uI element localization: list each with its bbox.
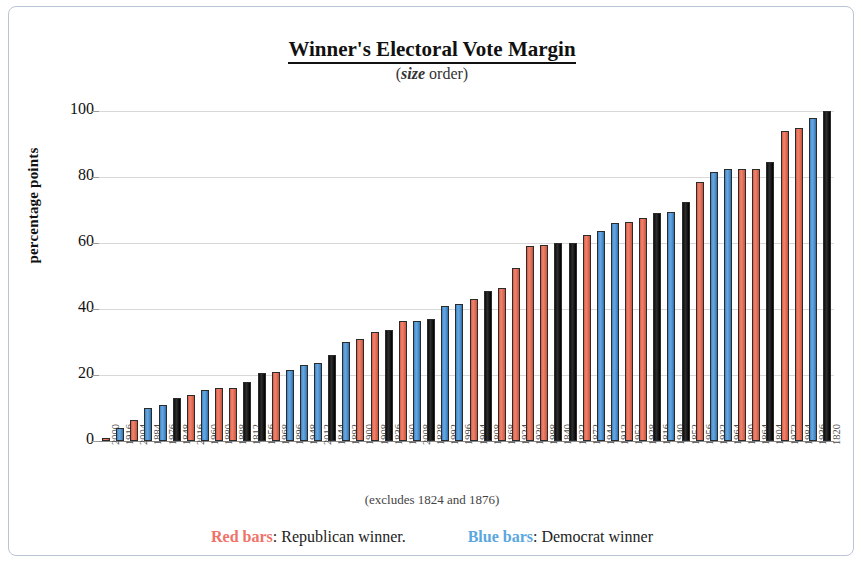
bar [795,128,803,442]
chart-subtitle: (size order) [9,65,855,83]
bar [682,202,690,441]
bar [781,131,789,441]
y-axis-tick-mark [92,309,99,310]
y-axis-tick-mark [92,177,99,178]
bar [809,118,817,441]
bar [611,223,619,441]
chart-title: Winner's Electoral Vote Margin [9,37,855,62]
chart-note: (excludes 1824 and 1876) [9,492,855,508]
bar [696,182,704,441]
bar [399,321,407,441]
y-axis-tick-label: 40 [34,298,94,316]
legend-republican-swatch-label: Red bars [211,528,273,545]
bar [823,111,831,441]
bar [300,365,308,441]
chart-frame: Winner's Electoral Vote Margin (size ord… [8,6,854,556]
bar [187,395,195,441]
y-axis-tick-label: 60 [34,232,94,250]
y-axis-tick-label: 0 [34,430,94,448]
bar [258,373,266,441]
gridline [99,111,834,112]
bar [102,438,110,441]
bar [639,218,647,441]
y-axis-tick-label: 80 [34,166,94,184]
y-axis-tick-mark [92,375,99,376]
bar [554,243,562,441]
subtitle-rest: order) [425,65,468,82]
y-axis-tick-mark [92,441,99,442]
y-axis-tick-label: 100 [34,100,94,118]
bar [201,390,209,441]
bar [653,213,661,441]
bar [413,321,421,441]
bar [215,388,223,441]
bar [597,231,605,441]
legend-republican-text: : Republican winner. [273,528,406,545]
x-axis-tick-label: 1820 [831,424,842,445]
chart-legend: Red bars: Republican winner.Blue bars: D… [9,528,855,546]
bar [371,332,379,441]
bar [738,169,746,441]
bar [455,304,463,441]
bar [724,169,732,441]
bar [159,405,167,441]
bar [583,235,591,441]
legend-democrat-text: : Democrat winner [533,528,653,545]
bar [441,306,449,441]
bar [272,372,280,441]
y-axis-tick-mark [92,243,99,244]
bar [710,172,718,441]
bar [498,288,506,441]
bar [286,370,294,441]
y-axis-tick-label: 20 [34,364,94,382]
bar [667,212,675,441]
bar [484,291,492,441]
bar [752,169,760,441]
bar [540,245,548,441]
chart-title-text: Winner's Electoral Vote Margin [288,37,575,64]
bar [173,398,181,441]
legend-democrat-swatch-label: Blue bars [468,528,533,545]
bar [427,319,435,441]
bar [766,162,774,441]
bar [526,246,534,441]
bar [512,268,520,441]
bar [385,330,393,441]
bar [314,363,322,441]
y-axis-tick-mark [92,111,99,112]
bar [470,299,478,441]
plot-area: 0204060801002000191620041884197618482016… [99,111,834,441]
bar [116,428,124,441]
subtitle-emphasis: size [401,65,425,82]
bar [625,222,633,441]
bar [569,243,577,441]
